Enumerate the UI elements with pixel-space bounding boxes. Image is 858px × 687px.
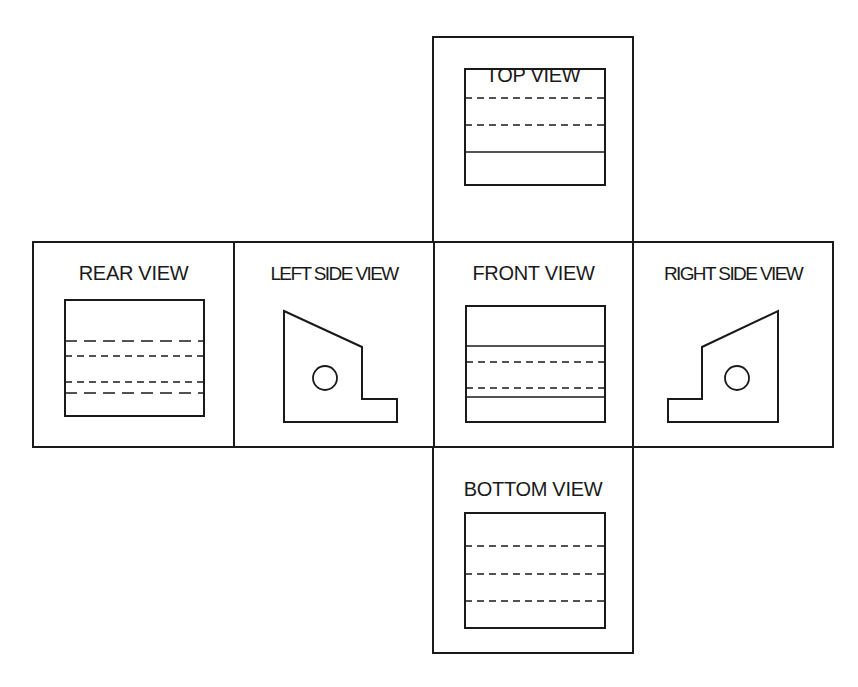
front-view-drawing [435, 243, 632, 446]
left-side-view-panel: LEFT SIDE VIEW [233, 241, 435, 448]
left-side-view-drawing [235, 243, 433, 446]
rear-view-drawing [34, 243, 233, 446]
top-view-panel: TOP VIEW [432, 36, 634, 243]
bottom-view-drawing [434, 448, 632, 652]
top-view-drawing [434, 38, 632, 241]
right-side-view-drawing [634, 243, 832, 446]
rear-view-panel: REAR VIEW [32, 241, 235, 448]
bottom-view-panel: BOTTOM VIEW [432, 446, 634, 654]
right-side-view-panel: RIGHT SIDE VIEW [632, 241, 834, 448]
front-view-panel: FRONT VIEW [433, 241, 634, 448]
